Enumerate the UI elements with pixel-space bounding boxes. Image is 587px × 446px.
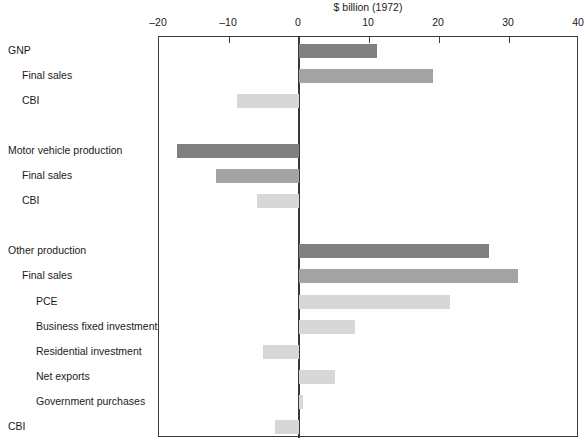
bar: [275, 420, 300, 434]
bar: [299, 295, 450, 309]
category-label: PCE: [36, 295, 58, 307]
category-label: CBI: [22, 194, 40, 206]
category-label: Motor vehicle production: [8, 144, 122, 156]
bar: [299, 370, 335, 384]
x-tick-label: 30: [502, 16, 514, 28]
category-label: Government purchases: [36, 395, 145, 407]
bar: [237, 94, 299, 108]
x-tick-label: 20: [432, 16, 444, 28]
category-label: Net exports: [36, 370, 90, 382]
category-label: GNP: [8, 44, 31, 56]
axis-title: $ billion (1972): [334, 1, 403, 13]
bar: [299, 244, 489, 258]
category-label: Business fixed investment: [36, 320, 157, 332]
bar: [299, 69, 433, 83]
bar: [299, 395, 303, 409]
category-label: CBI: [22, 94, 40, 106]
bar: [257, 194, 299, 208]
x-tick-label: 10: [362, 16, 374, 28]
bar: [216, 169, 299, 183]
bar-chart: $ billion (1972) –20–10010203040 GNPFina…: [0, 0, 587, 446]
category-labels: GNPFinal salesCBIMotor vehicle productio…: [0, 36, 158, 437]
x-tick-label: –20: [149, 16, 167, 28]
x-tick-label: 40: [572, 16, 584, 28]
bar: [299, 320, 355, 334]
x-tick-label: –10: [219, 16, 237, 28]
category-label: Residential investment: [36, 345, 142, 357]
category-label: Other production: [8, 244, 86, 256]
bar: [177, 144, 299, 158]
bars-layer: [159, 37, 579, 438]
category-label: CBI: [8, 420, 26, 432]
bar: [299, 44, 377, 58]
category-label: Final sales: [22, 269, 72, 281]
category-label: Final sales: [22, 169, 72, 181]
bar: [299, 269, 518, 283]
category-label: Final sales: [22, 69, 72, 81]
x-tick-label: 0: [295, 16, 301, 28]
plot-area: [158, 36, 578, 437]
bar: [263, 345, 299, 359]
